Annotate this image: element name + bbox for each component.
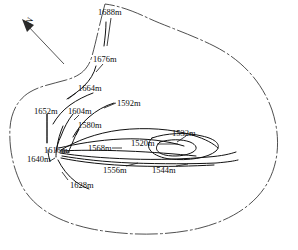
leader-1592	[104, 103, 116, 108]
contour-label-1532: 1532m	[172, 129, 196, 138]
contour-label-1604: 1604m	[68, 107, 92, 116]
contour-label-1628: 1628m	[70, 181, 94, 190]
leader-1688	[107, 18, 111, 46]
contour-label-1568: 1568m	[88, 144, 112, 153]
contour-label-1676: 1676m	[93, 55, 117, 64]
study-area-boundary	[10, 4, 278, 234]
contour-map-figure: 1688m 1676m 1664m 1592m 1652m 1604m 1580…	[0, 0, 298, 250]
contour-label-1544: 1544m	[152, 166, 176, 175]
contour-label-1652: 1652m	[34, 107, 58, 116]
north-arrow-shaft	[26, 24, 64, 64]
contour-label-1688: 1688m	[98, 8, 122, 17]
contour-1556	[60, 152, 236, 159]
contour-cluster-stroke-b	[60, 150, 196, 156]
contour-label-1640: 1640m	[27, 155, 51, 164]
contour-label-1556: 1556m	[103, 166, 127, 175]
contour-label-1520: 1520m	[131, 139, 155, 148]
north-arrow	[22, 19, 64, 64]
leader-1664	[68, 93, 76, 99]
contour-label-1580: 1580m	[78, 121, 102, 130]
contour-1688	[104, 22, 106, 46]
contour-cluster-stroke-a	[59, 139, 184, 148]
boundary-outline	[10, 4, 278, 234]
contour-map-canvas	[0, 0, 298, 250]
contour-label-1592: 1592m	[117, 99, 141, 108]
leader-1676	[96, 64, 103, 72]
contour-label-1664: 1664m	[78, 84, 102, 93]
